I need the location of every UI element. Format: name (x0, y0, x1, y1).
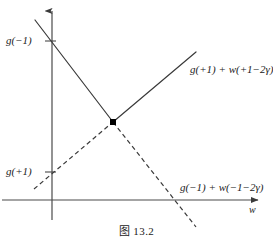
decreasing-line-dashed (113, 122, 196, 227)
y-axis-label-g-plus1: g(+1) (6, 166, 32, 177)
increasing-line-dashed (34, 122, 113, 189)
x-axis-label: w (249, 205, 256, 215)
plot-canvas (0, 0, 273, 242)
intersection-point-marker (110, 119, 116, 125)
figure-container: g(−1) g(+1) g(+1) + w(+1−2γ) g(−1) + w(−… (0, 0, 273, 242)
lower-curve-label: g(−1) + w(−1−2γ) (180, 182, 264, 193)
y-axis-label-g-minus1: g(−1) (6, 35, 32, 46)
upper-curve-label: g(+1) + w(+1−2γ) (190, 64, 273, 75)
figure-caption: 图 13.2 (0, 222, 273, 238)
increasing-line-solid (113, 52, 196, 122)
decreasing-line-solid (35, 20, 113, 122)
